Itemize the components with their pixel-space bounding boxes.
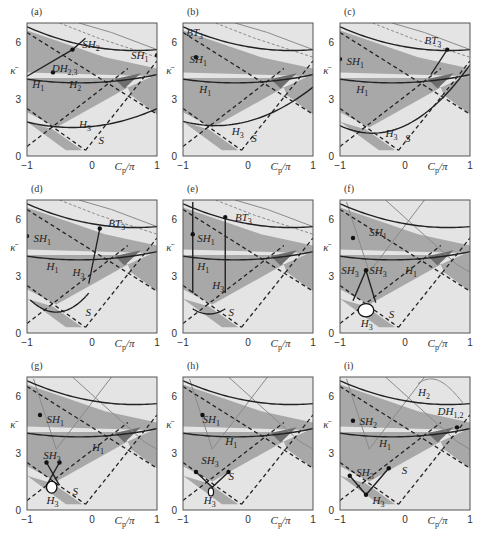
x-axis-label: Cp/π bbox=[115, 337, 135, 352]
panel-label: (h) bbox=[187, 360, 199, 372]
panel-a: SH2SH1DH2,3H1H2H3S(a)036−101Cp/πκ̄ bbox=[10, 6, 160, 175]
panel-label: (c) bbox=[344, 6, 355, 18]
y-axis-label: κ̄ bbox=[323, 418, 331, 430]
x-tick-label: −1 bbox=[177, 160, 189, 171]
panel-c: BT3SH1H1H3S(c)036−101Cp/πκ̄ bbox=[323, 6, 473, 175]
x-tick-label: −1 bbox=[334, 160, 346, 171]
x-axis-label: Cp/π bbox=[271, 160, 291, 175]
x-tick-label: 1 bbox=[310, 160, 316, 171]
x-tick-label: −1 bbox=[177, 514, 189, 525]
curve-label-s: S bbox=[389, 308, 395, 320]
panel-g: SH1SH3H1H3S(g)036−101Cp/πκ̄ bbox=[10, 360, 160, 529]
x-tick-label: 1 bbox=[310, 514, 316, 525]
x-tick-label: 0 bbox=[89, 160, 95, 171]
x-tick-label: 0 bbox=[245, 337, 251, 348]
x-tick-label: −1 bbox=[21, 337, 33, 348]
x-axis-label: Cp/π bbox=[271, 337, 291, 352]
y-axis-label: κ̄ bbox=[10, 241, 18, 253]
y-axis-label: κ̄ bbox=[10, 418, 18, 430]
y-tick-label: 6 bbox=[328, 37, 334, 48]
y-tick-label: 6 bbox=[15, 37, 21, 48]
x-tick-label: 0 bbox=[89, 337, 95, 348]
y-tick-label: 6 bbox=[171, 214, 177, 225]
panel-label: (e) bbox=[187, 183, 198, 195]
curve-label-s: S bbox=[99, 134, 105, 146]
panel-label: (d) bbox=[31, 183, 43, 195]
curve-label-s: S bbox=[251, 132, 257, 144]
x-tick-label: −1 bbox=[21, 160, 33, 171]
curve-label-s: S bbox=[405, 132, 411, 144]
x-tick-label: 0 bbox=[402, 514, 408, 525]
x-axis-label: Cp/π bbox=[428, 160, 448, 175]
curve-label-s: S bbox=[402, 464, 408, 476]
y-tick-label: 3 bbox=[15, 448, 21, 459]
curve-label-s: S bbox=[73, 485, 79, 497]
y-tick-label: 6 bbox=[328, 214, 334, 225]
panel-b: BT3SH1H1H3S(b)036−101Cp/πκ̄ bbox=[166, 6, 316, 175]
x-tick-label: 1 bbox=[467, 514, 473, 525]
panel-f: SH1SH3SH3H1H3S(f)036−101Cp/πκ̄ bbox=[323, 183, 473, 352]
panel-label: (b) bbox=[187, 6, 199, 18]
x-axis-label: Cp/π bbox=[271, 514, 291, 529]
figure-canvas: SH2SH1DH2,3H1H2H3S(a)036−101Cp/πκ̄BT3SH1… bbox=[0, 0, 489, 542]
y-axis-label: κ̄ bbox=[10, 64, 18, 76]
x-tick-label: −1 bbox=[21, 514, 33, 525]
x-axis-label: Cp/π bbox=[115, 514, 135, 529]
y-tick-label: 6 bbox=[15, 214, 21, 225]
panel-i: H2DH1,2SH2H1SH3SH3(i)036−101Cp/πκ̄ bbox=[323, 360, 473, 529]
x-tick-label: 1 bbox=[154, 160, 160, 171]
y-tick-label: 3 bbox=[171, 94, 177, 105]
x-tick-label: 0 bbox=[245, 160, 251, 171]
y-axis-label: κ̄ bbox=[166, 64, 174, 76]
x-tick-label: 1 bbox=[154, 337, 160, 348]
bifurcation-figure: SH2SH1DH2,3H1H2H3S(a)036−101Cp/πκ̄BT3SH1… bbox=[0, 0, 489, 542]
y-axis-label: κ̄ bbox=[166, 418, 174, 430]
x-axis-label: Cp/π bbox=[428, 514, 448, 529]
panel-label: (g) bbox=[31, 360, 43, 372]
y-tick-label: 6 bbox=[15, 391, 21, 402]
y-axis-label: κ̄ bbox=[166, 241, 174, 253]
y-tick-label: 3 bbox=[171, 271, 177, 282]
x-tick-label: 1 bbox=[467, 337, 473, 348]
x-tick-label: 0 bbox=[89, 514, 95, 525]
x-tick-label: −1 bbox=[334, 337, 346, 348]
x-tick-label: 0 bbox=[245, 514, 251, 525]
panel-e: BT3SH1H1H3S(e)036−101Cp/πκ̄ bbox=[166, 183, 316, 352]
panel-label: (a) bbox=[31, 6, 42, 18]
y-tick-label: 3 bbox=[328, 94, 334, 105]
y-axis-label: κ̄ bbox=[323, 64, 331, 76]
x-axis-label: Cp/π bbox=[428, 337, 448, 352]
y-tick-label: 3 bbox=[15, 94, 21, 105]
panel-h: SH1SH3H1H3S(h)036−101Cp/πκ̄ bbox=[166, 360, 316, 529]
x-tick-label: −1 bbox=[334, 514, 346, 525]
x-tick-label: 1 bbox=[467, 160, 473, 171]
y-tick-label: 3 bbox=[15, 271, 21, 282]
y-axis-label: κ̄ bbox=[323, 241, 331, 253]
x-axis-label: Cp/π bbox=[115, 160, 135, 175]
x-tick-label: −1 bbox=[177, 337, 189, 348]
curve-label-s: S bbox=[229, 470, 235, 482]
curve-label-s: S bbox=[229, 306, 235, 318]
x-tick-label: 1 bbox=[154, 514, 160, 525]
panel-d: BT3SH1H1H3S(d)036−101Cp/πκ̄ bbox=[10, 183, 160, 352]
y-tick-label: 6 bbox=[171, 37, 177, 48]
curve-label-s: S bbox=[86, 306, 92, 318]
y-tick-label: 3 bbox=[171, 448, 177, 459]
y-tick-label: 6 bbox=[328, 391, 334, 402]
panel-label: (f) bbox=[344, 183, 354, 195]
x-tick-label: 1 bbox=[310, 337, 316, 348]
x-tick-label: 0 bbox=[402, 337, 408, 348]
y-tick-label: 6 bbox=[171, 391, 177, 402]
y-tick-label: 3 bbox=[328, 271, 334, 282]
x-tick-label: 0 bbox=[402, 160, 408, 171]
panel-label: (i) bbox=[344, 360, 353, 372]
y-tick-label: 3 bbox=[328, 448, 334, 459]
